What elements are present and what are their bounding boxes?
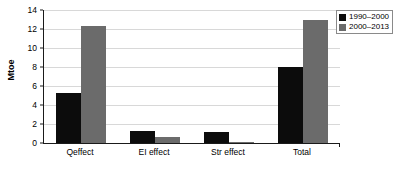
bar-chart: Mtoe 02468101214 QeffectEI effectStr eff… [0, 0, 412, 172]
bar-group [192, 10, 266, 143]
bar-group [118, 10, 192, 143]
x-axis-tick-label: Qeffect [43, 147, 117, 157]
x-axis-tick-label: Str effect [191, 147, 265, 157]
legend: 1990–20002000–2013 [336, 10, 393, 34]
legend-swatch-icon [339, 24, 346, 31]
legend-swatch-icon [339, 14, 346, 21]
bar[interactable] [155, 137, 180, 143]
y-axis-tick-label: 0 [32, 139, 37, 148]
y-axis-tick-label: 14 [28, 6, 37, 15]
x-axis-tick-labels: QeffectEI effectStr effectTotal [43, 147, 339, 157]
bar[interactable] [303, 20, 328, 144]
y-axis-tick-label: 4 [32, 101, 37, 110]
y-axis-tick-label: 2 [32, 120, 37, 129]
bar[interactable] [278, 67, 303, 143]
bar[interactable] [204, 132, 229, 143]
y-axis-tick-label: 12 [28, 25, 37, 34]
bar-group [44, 10, 118, 143]
y-axis-tick-label: 8 [32, 63, 37, 72]
y-axis-tick-labels: 02468101214 [20, 10, 40, 143]
bar[interactable] [81, 26, 106, 143]
legend-item-label: 2000–2013 [349, 23, 389, 31]
y-axis-title: Mtoe [2, 0, 18, 140]
x-axis-tick-label: Total [265, 147, 339, 157]
legend-item-label: 1990–2000 [349, 13, 389, 21]
y-axis-tick-label: 6 [32, 82, 37, 91]
x-axis-tick-label: EI effect [117, 147, 191, 157]
x-axis-tick-mark [339, 143, 340, 147]
bar[interactable] [130, 131, 155, 143]
y-axis-tick-label: 10 [28, 44, 37, 53]
bar[interactable] [229, 142, 254, 143]
bar-groups [44, 10, 340, 143]
bar-group [266, 10, 340, 143]
legend-item[interactable]: 1990–2000 [339, 13, 389, 21]
plot-area [43, 10, 340, 144]
bar[interactable] [56, 93, 81, 143]
legend-item[interactable]: 2000–2013 [339, 23, 389, 31]
plot-wrapper: 02468101214 QeffectEI effectStr effectTo… [20, 10, 342, 170]
y-axis-title-label: Mtoe [5, 60, 15, 81]
